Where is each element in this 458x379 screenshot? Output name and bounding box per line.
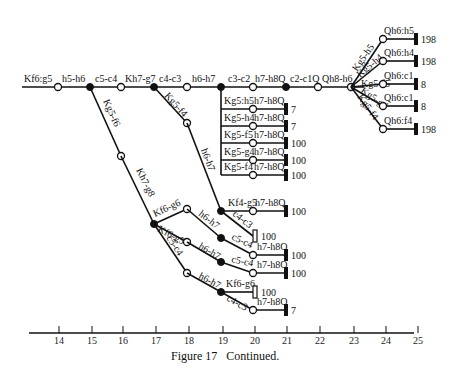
open-node-icon [380,81,387,88]
outcome-value: 7 [291,305,296,316]
axis-tick-label: 16 [118,335,128,346]
terminal-marker-icon [414,33,418,45]
terminal-marker-icon [284,154,288,166]
terminal-marker-icon [414,100,418,112]
move-label: Qh6:c1 [384,70,413,81]
move-label: h7-h8Q [254,112,285,123]
move-label: h7-h8Q [254,129,285,140]
open-node-icon [380,126,387,133]
move-label: h7-h8Q [257,296,288,307]
outcome-value: 7 [291,104,296,115]
open-node-icon [250,140,257,147]
move-label: Kg5-h4 [224,112,255,123]
move-label: c4-c3 [225,292,250,313]
outcome-value: 100 [291,268,306,279]
outcome-value: 8 [421,101,426,112]
terminal-marker-icon [284,267,288,279]
move-label: Kg5-f5 [224,129,253,140]
x-axis: 14 15 16 17 18 19 20 21 22 23 24 25 [29,326,423,346]
c3c2-branches: Kg5:h5 Kg5-h4 Kg5-f5 Kg5-g4 Kg5-f4 h7-h8… [221,87,306,181]
open-node-icon [55,84,62,91]
open-node-icon [118,84,125,91]
axis-tick-label: 23 [349,335,359,346]
outcome-value: 7 [291,121,296,132]
move-label: Kf6-g6 [226,278,255,289]
terminal-marker-icon [284,120,288,132]
move-label: Kh7-g8 [134,166,157,198]
move-label: h7-h8Q [254,161,285,172]
move-label: Qh6:c1 [384,92,413,103]
outcome-value: 198 [421,124,436,135]
move-label: h5-h6 [62,73,85,84]
move-label: Kg5-f4 [163,90,191,119]
axis-tick-label: 20 [250,335,260,346]
move-label: c5-c4 [95,73,117,84]
open-node-icon [315,84,322,91]
axis-tick-label: 19 [218,335,228,346]
outcome-value: 198 [421,56,436,67]
move-label: c4-c3 [159,73,181,84]
move-label: h6-h7 [197,270,223,291]
move-label: h6-h7 [192,73,215,84]
open-node-icon [380,103,387,110]
figure-caption: Figure 17 Continued. [171,349,279,363]
axis-tick-label: 21 [282,335,292,346]
axis-tick-label: 25 [413,335,423,346]
open-node-icon [250,270,257,277]
move-label: h7-h8Q [255,197,286,208]
move-label: Kg5-g4 [224,146,255,157]
open-node-icon [250,172,257,179]
terminal-marker-icon [284,103,288,115]
outcome-value: 100 [291,170,306,181]
move-label: Qh8-h6 [322,73,353,84]
move-label: Kf6:g5 [24,73,52,84]
open-node-icon [380,58,387,65]
axis-tick-label: 17 [151,335,161,346]
open-node-icon [250,106,257,113]
move-label: c2-c1Q [290,73,320,84]
terminal-marker-icon [284,205,288,217]
outcome-value: 100 [291,250,306,261]
open-node-icon [250,157,257,164]
open-node-icon [250,84,257,91]
terminal-marker-icon [414,55,418,67]
closed-node-icon [283,84,290,91]
move-label: h7-h8Q [254,95,285,106]
outcome-value: 100 [291,155,306,166]
move-label: Kf4-g5 [228,197,257,208]
move-label: Qh6:h5 [384,25,414,36]
terminal-marker-icon [414,123,418,135]
move-label: Kh7-g7 [125,73,156,84]
open-node-icon [250,307,257,314]
outcome-value: 100 [291,206,306,217]
game-tree-diagram: Kf6:g5 h5-h6 c5-c4 Kh7-g7 c4-c3 h6-h7 c3… [0,0,458,379]
open-node-icon [184,84,191,91]
outcome-value: 198 [421,34,436,45]
move-label: Qh6:f4 [384,115,412,126]
outcome-value: 8 [421,79,426,90]
move-label: h7-h8Q [255,73,286,84]
open-node-icon [380,36,387,43]
move-label: Kg5-f4 [224,161,253,172]
move-label: c3-c2 [228,73,250,84]
terminal-marker-icon [284,137,288,149]
fan-branches: Kg5-h5 Kg5-h4 Kg5-f5 Kg5-g4 Kg5-f4 Qh6:h… [350,25,436,135]
move-label: h7-h8Q [254,146,285,157]
terminal-marker-icon [284,169,288,181]
axis-tick-label: 22 [315,335,325,346]
terminal-marker-icon [284,304,288,316]
open-node-icon [250,208,257,215]
axis-tick-label: 15 [87,335,97,346]
open-node-icon [250,123,257,130]
outcome-value: 100 [291,138,306,149]
move-label: Kg5:h5 [224,95,254,106]
move-label: h6-h7 [197,240,223,261]
main-line: Kf6:g5 h5-h6 c5-c4 Kh7-g7 c4-c3 h6-h7 c3… [22,73,364,91]
axis-tick-label: 24 [381,335,391,346]
move-label: Kf6-g6 [151,197,182,219]
move-label: Kg5-f6 [101,97,123,128]
terminal-marker-icon [414,78,418,90]
axis-tick-label: 18 [184,335,194,346]
move-label: h7-h8Q [257,259,288,270]
move-label: Qh6:h4 [384,47,414,58]
